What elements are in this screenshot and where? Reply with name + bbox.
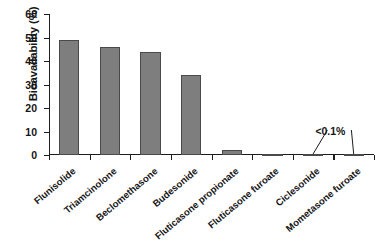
less-than-point-one-percent-annotation: <0.1% bbox=[315, 125, 345, 137]
y-tick-label: 60 bbox=[25, 8, 37, 20]
x-tick-mark bbox=[130, 155, 131, 160]
y-axis-line bbox=[49, 14, 50, 155]
y-tick-mark: 30 bbox=[44, 85, 49, 86]
bar bbox=[262, 154, 282, 156]
x-tick-mark bbox=[90, 155, 91, 160]
bar bbox=[344, 154, 364, 156]
x-tick-mark bbox=[49, 155, 50, 160]
y-tick-label: 20 bbox=[25, 102, 37, 114]
y-tick-label: 10 bbox=[25, 126, 37, 138]
x-tick-mark bbox=[333, 155, 334, 160]
bar bbox=[222, 150, 242, 155]
x-tick-mark bbox=[293, 155, 294, 160]
y-tick-mark: 50 bbox=[44, 38, 49, 39]
y-tick-mark: 40 bbox=[44, 61, 49, 62]
bar bbox=[59, 40, 79, 155]
y-tick-mark: 10 bbox=[44, 132, 49, 133]
y-tick-label: 50 bbox=[25, 32, 37, 44]
bar bbox=[140, 52, 160, 155]
y-tick-label: 40 bbox=[25, 55, 37, 67]
y-tick-mark: 20 bbox=[44, 108, 49, 109]
bar bbox=[181, 75, 201, 155]
x-tick-mark bbox=[171, 155, 172, 160]
y-tick-label: 30 bbox=[25, 79, 37, 91]
bar bbox=[303, 154, 323, 156]
x-category-label: Mometasone furoate bbox=[283, 165, 362, 234]
bar bbox=[100, 47, 120, 155]
x-tick-mark bbox=[374, 155, 375, 160]
y-tick-mark: 60 bbox=[44, 14, 49, 15]
bar-chart-figure: Bioavailability (%) 0102030405060 Flunis… bbox=[0, 0, 384, 251]
x-category-label: Fluticasone furoate bbox=[206, 165, 281, 230]
x-tick-mark bbox=[212, 155, 213, 160]
x-tick-mark bbox=[252, 155, 253, 160]
y-tick-label: 0 bbox=[31, 149, 37, 161]
